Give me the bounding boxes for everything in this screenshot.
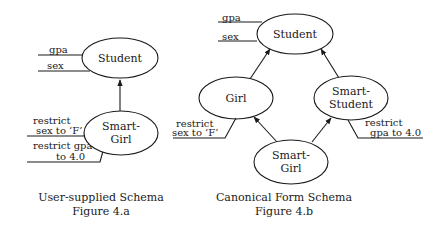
caption-4a-figure: Figure 4.a bbox=[72, 205, 130, 218]
node-smart-girl-line2: Girl bbox=[110, 133, 132, 146]
restrict-gpa-line1: restrict gpa bbox=[33, 140, 92, 151]
b-node-smart-student: Smart- Student bbox=[314, 76, 388, 120]
b-node-student-label: Student bbox=[273, 28, 318, 41]
figure-4a: gpa sex Student restrict sex to ‘F’ rest… bbox=[27, 38, 164, 218]
caption-4b-figure: Figure 4.b bbox=[255, 205, 313, 218]
b-node-girl: Girl bbox=[199, 77, 273, 119]
b-isa-arrow-girl-student bbox=[250, 49, 270, 79]
node-student-label: Student bbox=[98, 52, 143, 65]
b-restrict-gpa-line2: gpa to 4.0 bbox=[370, 127, 421, 138]
attr-sex-label: sex bbox=[47, 60, 64, 71]
restrict-sex-line2: sex to ‘F’ bbox=[36, 125, 82, 136]
b-isa-arrow-smartstudent-student bbox=[321, 49, 339, 78]
attr-gpa-label: gpa bbox=[49, 44, 68, 55]
restrict-gpa-line2: to 4.0 bbox=[56, 151, 85, 162]
b-isa-arrow-smartgirl-smartstudent bbox=[312, 118, 331, 142]
b-node-smart-student-line2: Student bbox=[329, 98, 374, 111]
caption-4a-title: User-supplied Schema bbox=[38, 191, 164, 204]
b-node-smart-girl-line1: Smart- bbox=[272, 149, 310, 162]
b-node-student: Student bbox=[257, 14, 333, 54]
caption-4b-title: Canonical Form Schema bbox=[216, 191, 353, 204]
b-attr-gpa-label: gpa bbox=[222, 12, 241, 23]
schema-diagram: gpa sex Student restrict sex to ‘F’ rest… bbox=[0, 0, 442, 230]
b-isa-arrow-smartgirl-girl bbox=[254, 117, 277, 142]
b-node-smart-girl-line2: Girl bbox=[280, 162, 302, 175]
node-student: Student bbox=[82, 38, 158, 78]
b-attr-sex-label: sex bbox=[222, 31, 239, 42]
b-node-smart-girl: Smart- Girl bbox=[254, 140, 328, 184]
node-smart-girl-line1: Smart- bbox=[102, 120, 140, 133]
b-node-smart-student-line1: Smart- bbox=[332, 85, 370, 98]
b-restrict-sex-line2: sex to ‘F’ bbox=[172, 127, 218, 138]
b-node-girl-label: Girl bbox=[225, 92, 247, 105]
figure-4b: gpa sex Student Girl Smart- Student rest… bbox=[172, 12, 423, 218]
node-smart-girl: Smart- Girl bbox=[84, 111, 158, 155]
